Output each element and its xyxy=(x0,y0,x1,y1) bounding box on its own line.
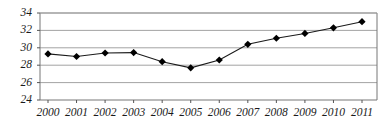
y-tick-label-30: 30 xyxy=(8,41,32,53)
x-tick-label-2011: 2011 xyxy=(345,106,379,118)
plot-background xyxy=(40,13,377,100)
line-chart: 242628303234 200020012002200320042005200… xyxy=(0,0,392,136)
y-tick-label-26: 26 xyxy=(8,76,32,88)
y-tick-label-28: 28 xyxy=(8,58,32,70)
y-tick-label-32: 32 xyxy=(8,23,32,35)
y-tick-label-24: 24 xyxy=(8,93,32,105)
y-tick-label-34: 34 xyxy=(8,6,32,18)
